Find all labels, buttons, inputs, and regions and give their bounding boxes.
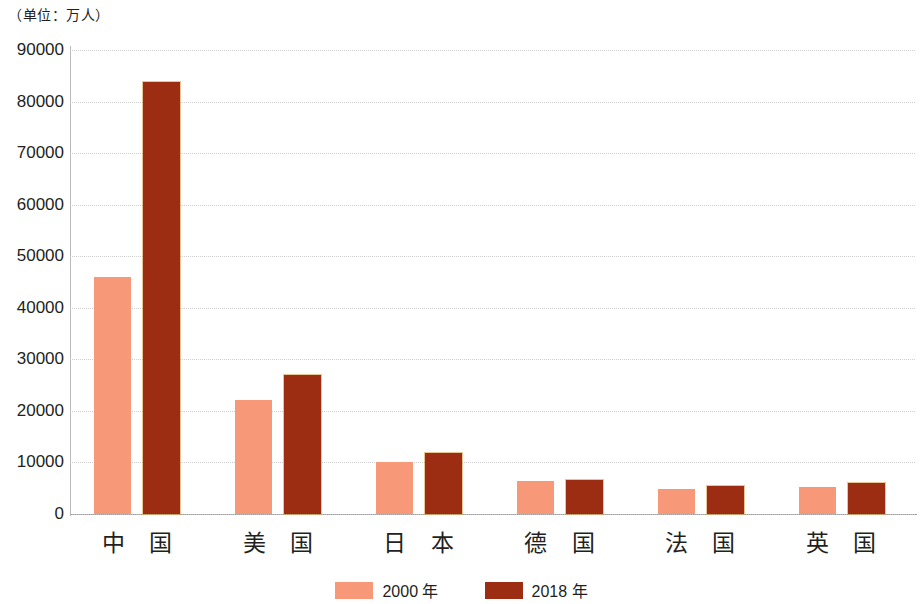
bar-group bbox=[799, 50, 885, 514]
gridline bbox=[70, 462, 915, 463]
legend-label: 2000 年 bbox=[382, 578, 438, 602]
x-axis-category-label: 中 国 bbox=[102, 524, 181, 558]
y-axis-tick-labels: 0100002000030000400005000060000700008000… bbox=[0, 0, 64, 604]
x-axis-category-labels: 中 国美 国日 本德 国法 国英 国 bbox=[70, 524, 915, 564]
x-axis-category-label: 日 本 bbox=[383, 524, 462, 558]
y-axis-tick-label: 60000 bbox=[2, 195, 64, 215]
gridline bbox=[70, 153, 915, 154]
legend-label: 2018 年 bbox=[532, 578, 588, 602]
bar-group bbox=[235, 50, 321, 514]
bar-group bbox=[517, 50, 603, 514]
legend-swatch-icon bbox=[335, 582, 373, 599]
legend-item[interactable]: 2000 年 bbox=[335, 578, 438, 602]
y-axis-tick-label: 50000 bbox=[2, 246, 64, 266]
y-axis-tick-label: 30000 bbox=[2, 349, 64, 369]
bar bbox=[707, 486, 744, 514]
y-axis-tick-label: 90000 bbox=[2, 40, 64, 60]
gridline bbox=[70, 256, 915, 257]
gridline bbox=[70, 359, 915, 360]
gridline bbox=[70, 102, 915, 103]
bar bbox=[284, 375, 321, 514]
bar-chart: （单位：万人） 01000020000300004000050000600007… bbox=[0, 0, 923, 604]
bar bbox=[94, 277, 131, 514]
x-axis-category-label: 美 国 bbox=[243, 524, 322, 558]
x-axis-category-label: 英 国 bbox=[806, 524, 885, 558]
bar bbox=[517, 481, 554, 514]
bar-group bbox=[658, 50, 744, 514]
gridline bbox=[70, 411, 915, 412]
bar bbox=[799, 487, 836, 514]
bar-group bbox=[376, 50, 462, 514]
bar bbox=[658, 489, 695, 514]
bar bbox=[376, 462, 413, 514]
gridline bbox=[70, 514, 915, 515]
bar bbox=[143, 82, 180, 514]
legend-item[interactable]: 2018 年 bbox=[485, 578, 588, 602]
x-axis-category-label: 法 国 bbox=[665, 524, 744, 558]
bar bbox=[235, 400, 272, 514]
bar-group bbox=[94, 50, 180, 514]
y-axis-tick-label: 40000 bbox=[2, 298, 64, 318]
y-axis-tick-label: 10000 bbox=[2, 452, 64, 472]
chart-legend: 2000 年2018 年 bbox=[0, 578, 923, 602]
y-axis-tick-label: 80000 bbox=[2, 92, 64, 112]
gridline bbox=[70, 205, 915, 206]
plot-area bbox=[70, 50, 915, 514]
gridline bbox=[70, 308, 915, 309]
legend-swatch-icon bbox=[485, 582, 523, 599]
gridline bbox=[70, 50, 915, 51]
bar bbox=[566, 480, 603, 514]
bar bbox=[848, 483, 885, 514]
bar bbox=[425, 453, 462, 514]
y-axis-tick-label: 0 bbox=[2, 504, 64, 524]
y-axis-tick-label: 20000 bbox=[2, 401, 64, 421]
y-axis-tick-label: 70000 bbox=[2, 143, 64, 163]
x-axis-category-label: 德 国 bbox=[524, 524, 603, 558]
